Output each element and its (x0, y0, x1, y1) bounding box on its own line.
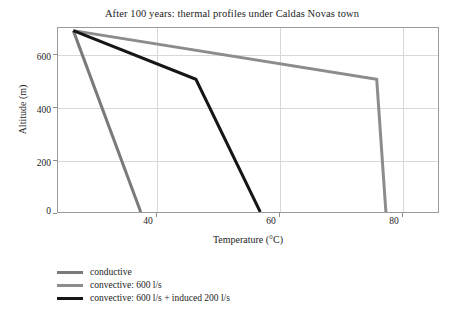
x-axis-label: Temperature (°C) (57, 234, 439, 245)
legend-item-convective-600-induced-200: convective: 600 l/s + induced 200 l/s (57, 292, 437, 305)
x-tick-label-80: 80 (374, 216, 414, 226)
legend-swatch-convective-600-induced-200 (57, 297, 83, 300)
y-axis-label: Altitude (m) (17, 60, 28, 160)
legend-swatch-convective-600 (57, 284, 83, 287)
legend-label-convective-600-induced-200: convective: 600 l/s + induced 200 l/s (90, 292, 230, 305)
series-line-2 (73, 31, 260, 212)
chart-figure: After 100 years: thermal profiles under … (0, 0, 464, 318)
x-tick-mark (279, 213, 280, 217)
legend-swatch-conductive (57, 271, 83, 274)
legend-label-convective-600: convective: 600 l/s (90, 279, 162, 292)
y-tick-label-200: 200 (5, 158, 51, 168)
legend-label-conductive: conductive (90, 266, 132, 279)
legend-item-convective-600: convective: 600 l/s (57, 279, 437, 292)
x-tick-mark (402, 213, 403, 217)
y-tick-label-0: 0 (5, 206, 51, 216)
series-layer (58, 28, 438, 212)
y-tick-mark (53, 54, 57, 55)
legend: conductive convective: 600 l/s convectiv… (57, 266, 437, 305)
chart-title: After 100 years: thermal profiles under … (0, 8, 464, 19)
series-line-1 (73, 31, 386, 212)
y-tick-mark (53, 160, 57, 161)
y-tick-label-400: 400 (5, 105, 51, 115)
y-tick-mark (53, 107, 57, 108)
x-tick-mark (156, 213, 157, 217)
x-tick-label-60: 60 (251, 216, 291, 226)
series-line-0 (73, 31, 140, 212)
y-tick-mark (53, 213, 57, 214)
legend-item-conductive: conductive (57, 266, 437, 279)
x-tick-label-40: 40 (128, 216, 168, 226)
plot-area (57, 27, 439, 213)
y-tick-label-600: 600 (5, 52, 51, 62)
